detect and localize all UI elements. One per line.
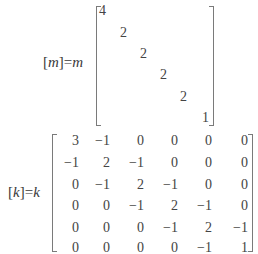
mass-matrix-right-bracket: [209, 6, 214, 126]
mass-diag-2: 2: [120, 26, 127, 40]
matrix-cell: 0: [188, 178, 212, 192]
matrix-cell: 0: [224, 199, 248, 213]
matrix-cell: −1: [120, 199, 144, 213]
mass-matrix-left-bracket: [96, 6, 101, 126]
matrix-cell: 0: [86, 221, 110, 235]
matrix-cell: 0: [224, 156, 248, 170]
matrix-cell: −1: [55, 156, 79, 170]
matrix-cell: 0: [55, 221, 79, 235]
matrix-cell: 0: [188, 134, 212, 148]
matrix-cell: −1: [120, 156, 144, 170]
mass-scalar: m: [72, 54, 83, 70]
matrix-cell: 0: [120, 134, 144, 148]
mass-diag-5: 2: [180, 90, 187, 104]
matrix-cell: 2: [120, 178, 144, 192]
matrix-cell: 0: [154, 156, 178, 170]
matrix-cell: 0: [154, 134, 178, 148]
matrix-cell: −1: [154, 221, 178, 235]
matrix-cell: −1: [188, 241, 212, 254]
matrix-cell: 3: [55, 134, 79, 148]
matrix-cell: 0: [55, 178, 79, 192]
stiffness-symbol: k: [13, 184, 20, 200]
mass-symbol: m: [48, 54, 59, 70]
mass-diag-4: 2: [160, 68, 167, 82]
mass-diag-1: 4: [99, 4, 106, 18]
stiffness-matrix-right-bracket: [248, 134, 253, 252]
mass-diag-6: 1: [202, 111, 209, 125]
matrix-cell: 0: [55, 241, 79, 254]
equals-sign: =: [25, 184, 33, 200]
matrix-cell: −1: [86, 178, 110, 192]
mass-matrix-lhs: [m]=m: [43, 55, 83, 70]
matrix-cell: 0: [120, 241, 144, 254]
stiffness-scalar: k: [33, 184, 40, 200]
mass-diag-3: 2: [140, 47, 147, 61]
matrix-cell: 0: [224, 178, 248, 192]
matrix-cell: 0: [154, 241, 178, 254]
matrix-cell: −1: [154, 178, 178, 192]
matrix-cell: −1: [188, 199, 212, 213]
stiffness-matrix-lhs: [k]=k: [8, 185, 40, 200]
matrix-cell: 0: [86, 241, 110, 254]
matrix-cell: −1: [86, 134, 110, 148]
matrix-cell: 2: [86, 156, 110, 170]
matrix-cell: 0: [55, 199, 79, 213]
matrix-cell: 1: [224, 241, 248, 254]
matrix-cell: −1: [224, 221, 248, 235]
matrix-cell: 0: [120, 221, 144, 235]
matrix-cell: 0: [86, 199, 110, 213]
matrix-cell: 0: [224, 134, 248, 148]
matrix-cell: 0: [188, 156, 212, 170]
matrix-cell: 2: [154, 199, 178, 213]
matrix-cell: 2: [188, 221, 212, 235]
